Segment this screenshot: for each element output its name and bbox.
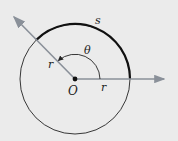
arc-label-s: s [95,14,101,27]
radius-label-ray: r [48,58,54,71]
diagram-canvas: s θ r r O [0,0,178,141]
arc-length-diagram: s θ r r O [0,0,178,141]
angle-theta-arc [59,54,101,79]
angle-label-theta: θ [84,44,91,57]
terminal-side-ray [14,17,75,79]
origin-point [73,77,78,82]
origin-label: O [68,84,78,98]
radius-label-axis: r [101,81,107,94]
